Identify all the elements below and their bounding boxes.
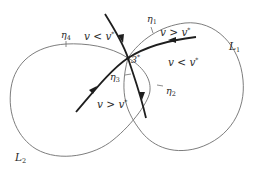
label-l2: L2 xyxy=(14,151,26,165)
tick-eta1 xyxy=(151,27,153,33)
label-center: 3* xyxy=(131,53,140,65)
label-eta2: η2 xyxy=(166,85,176,98)
tick-eta3 xyxy=(125,74,131,75)
region-top-left: v < v* xyxy=(84,30,114,42)
tick-eta2 xyxy=(157,85,163,86)
label-eta3: η3 xyxy=(110,71,120,84)
region-right: v < v* xyxy=(168,56,198,68)
label-eta4: η4 xyxy=(61,29,71,42)
diagram-canvas: η1 η2 η3 η4 3* v < v* v > v* v < v* v > … xyxy=(0,0,254,179)
label-l1: L1 xyxy=(228,40,240,54)
center-point xyxy=(126,56,129,59)
label-eta1: η1 xyxy=(147,13,157,26)
region-bottom-left: v > v* xyxy=(97,98,127,110)
region-top-right: v > v* xyxy=(160,26,190,38)
curve-l1 xyxy=(124,23,243,151)
